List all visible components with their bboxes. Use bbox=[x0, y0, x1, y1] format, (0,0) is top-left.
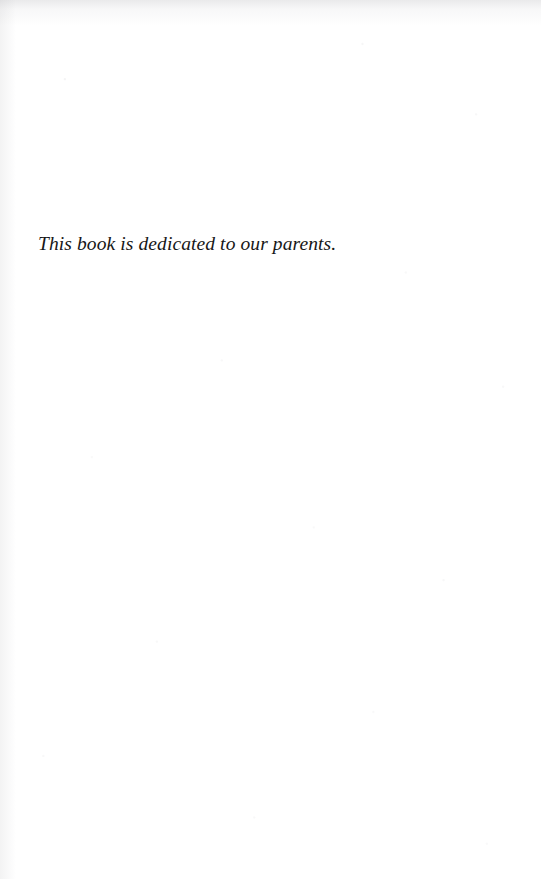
scan-left-edge-shadow bbox=[0, 0, 16, 879]
dedication-text: This book is dedicated to our parents. bbox=[38, 231, 336, 257]
book-page: This book is dedicated to our parents. bbox=[0, 0, 541, 879]
scan-top-edge-shadow bbox=[0, 0, 541, 26]
paper-grain-texture bbox=[0, 0, 541, 879]
